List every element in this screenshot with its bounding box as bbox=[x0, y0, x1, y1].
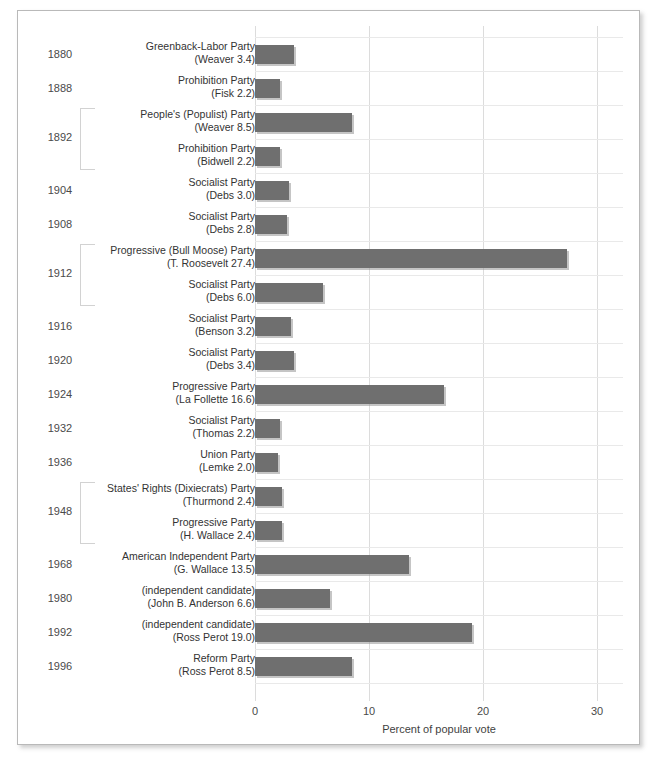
candidate-and-percent: (Weaver 3.4) bbox=[23, 53, 255, 66]
candidate-and-percent: (Debs 2.8) bbox=[23, 223, 255, 236]
x-axis-tick-label: 0 bbox=[235, 705, 275, 717]
bar-row: Progressive (Bull Moose) Party(T. Roosev… bbox=[18, 241, 641, 275]
row-party-label: Socialist Party(Debs 6.0) bbox=[23, 278, 255, 304]
row-party-label: Socialist Party(Debs 3.0) bbox=[23, 176, 255, 202]
party-name: Union Party bbox=[200, 448, 255, 460]
candidate-and-percent: (John B. Anderson 6.6) bbox=[23, 597, 255, 610]
candidate-and-percent: (H. Wallace 2.4) bbox=[23, 529, 255, 542]
party-name: Prohibition Party bbox=[178, 142, 255, 154]
bar-row: Progressive Party(H. Wallace 2.4) bbox=[18, 513, 641, 547]
candidate-and-percent: (Ross Perot 8.5) bbox=[23, 665, 255, 678]
row-party-label: Socialist Party(Thomas 2.2) bbox=[23, 414, 255, 440]
party-name: Socialist Party bbox=[188, 346, 255, 358]
row-party-label: Union Party(Lemke 2.0) bbox=[23, 448, 255, 474]
bar-row: 1880Greenback-Labor Party(Weaver 3.4) bbox=[18, 37, 641, 71]
candidate-and-percent: (Lemke 2.0) bbox=[23, 461, 255, 474]
row-party-label: Socialist Party(Debs 3.4) bbox=[23, 346, 255, 372]
bar bbox=[255, 555, 409, 574]
row-party-label: (independent candidate)(Ross Perot 19.0) bbox=[23, 618, 255, 644]
row-party-label: Greenback-Labor Party(Weaver 3.4) bbox=[23, 40, 255, 66]
bar bbox=[255, 589, 330, 608]
bar bbox=[255, 351, 294, 370]
bar-row: 1924Progressive Party(La Follette 16.6) bbox=[18, 377, 641, 411]
bar bbox=[255, 623, 472, 642]
candidate-and-percent: (Fisk 2.2) bbox=[23, 87, 255, 100]
bar-row: 1996Reform Party(Ross Perot 8.5) bbox=[18, 649, 641, 683]
bar bbox=[255, 147, 280, 166]
x-axis-title: Percent of popular vote bbox=[255, 723, 623, 735]
candidate-and-percent: (G. Wallace 13.5) bbox=[23, 563, 255, 576]
bar bbox=[255, 45, 294, 64]
party-name: (independent candidate) bbox=[142, 584, 255, 596]
bar bbox=[255, 419, 280, 438]
row-party-label: Socialist Party(Debs 2.8) bbox=[23, 210, 255, 236]
bar bbox=[255, 79, 280, 98]
party-name: Socialist Party bbox=[188, 312, 255, 324]
bar bbox=[255, 249, 567, 268]
bar-row: 1932Socialist Party(Thomas 2.2) bbox=[18, 411, 641, 445]
candidate-and-percent: (Thomas 2.2) bbox=[23, 427, 255, 440]
row-party-label: Progressive Party(La Follette 16.6) bbox=[23, 380, 255, 406]
candidate-and-percent: (Benson 3.2) bbox=[23, 325, 255, 338]
chart-frame: 1880Greenback-Labor Party(Weaver 3.4)188… bbox=[17, 10, 640, 745]
row-party-label: Reform Party(Ross Perot 8.5) bbox=[23, 652, 255, 678]
horizontal-gridline bbox=[255, 683, 623, 684]
bar bbox=[255, 181, 289, 200]
party-name: Prohibition Party bbox=[178, 74, 255, 86]
party-name: Progressive Party bbox=[172, 380, 255, 392]
bar-row: Prohibition Party(Bidwell 2.2) bbox=[18, 139, 641, 173]
party-name: American Independent Party bbox=[122, 550, 255, 562]
bar bbox=[255, 453, 278, 472]
party-name: States' Rights (Dixiecrats) Party bbox=[107, 482, 255, 494]
party-name: Reform Party bbox=[193, 652, 255, 664]
row-year-label: 1912 bbox=[26, 267, 94, 279]
bar bbox=[255, 113, 352, 132]
party-name: (independent candidate) bbox=[142, 618, 255, 630]
x-axis-tick-label: 10 bbox=[349, 705, 389, 717]
bar-row: Socialist Party(Debs 6.0) bbox=[18, 275, 641, 309]
party-name: Socialist Party bbox=[188, 278, 255, 290]
x-axis-tick-label: 20 bbox=[463, 705, 503, 717]
row-year-label: 1892 bbox=[26, 131, 94, 143]
party-name: People's (Populist) Party bbox=[140, 108, 255, 120]
row-year-label: 1948 bbox=[26, 505, 94, 517]
candidate-and-percent: (La Follette 16.6) bbox=[23, 393, 255, 406]
bar-row: 1968American Independent Party(G. Wallac… bbox=[18, 547, 641, 581]
candidate-and-percent: (Bidwell 2.2) bbox=[23, 155, 255, 168]
candidate-and-percent: (Debs 3.0) bbox=[23, 189, 255, 202]
bar-row: 1936Union Party(Lemke 2.0) bbox=[18, 445, 641, 479]
bar-row: 1904Socialist Party(Debs 3.0) bbox=[18, 173, 641, 207]
party-name: Greenback-Labor Party bbox=[146, 40, 255, 52]
bar bbox=[255, 657, 352, 676]
party-name: Socialist Party bbox=[188, 176, 255, 188]
party-name: Socialist Party bbox=[188, 210, 255, 222]
bar-row: 1916Socialist Party(Benson 3.2) bbox=[18, 309, 641, 343]
party-name: Progressive Party bbox=[172, 516, 255, 528]
bar bbox=[255, 215, 287, 234]
bar bbox=[255, 283, 323, 302]
bar-row: 1992(independent candidate)(Ross Perot 1… bbox=[18, 615, 641, 649]
plot-area: 1880Greenback-Labor Party(Weaver 3.4)188… bbox=[18, 11, 641, 746]
party-name: Socialist Party bbox=[188, 414, 255, 426]
row-party-label: American Independent Party(G. Wallace 13… bbox=[23, 550, 255, 576]
bar bbox=[255, 521, 282, 540]
bar-row: People's (Populist) Party(Weaver 8.5) bbox=[18, 105, 641, 139]
party-name: Progressive (Bull Moose) Party bbox=[110, 244, 255, 256]
bar-row: 1980(independent candidate)(John B. Ande… bbox=[18, 581, 641, 615]
row-party-label: Socialist Party(Benson 3.2) bbox=[23, 312, 255, 338]
bar-row: 1920Socialist Party(Debs 3.4) bbox=[18, 343, 641, 377]
chart-page: 1880Greenback-Labor Party(Weaver 3.4)188… bbox=[0, 0, 656, 761]
bar bbox=[255, 317, 291, 336]
candidate-and-percent: (Ross Perot 19.0) bbox=[23, 631, 255, 644]
row-party-label: Progressive Party(H. Wallace 2.4) bbox=[23, 516, 255, 542]
candidate-and-percent: (Debs 6.0) bbox=[23, 291, 255, 304]
bar-row: States' Rights (Dixiecrats) Party(Thurmo… bbox=[18, 479, 641, 513]
row-party-label: Prohibition Party(Fisk 2.2) bbox=[23, 74, 255, 100]
row-party-label: (independent candidate)(John B. Anderson… bbox=[23, 584, 255, 610]
bar-row: 1888Prohibition Party(Fisk 2.2) bbox=[18, 71, 641, 105]
candidate-and-percent: (Debs 3.4) bbox=[23, 359, 255, 372]
bar-row: 1908Socialist Party(Debs 2.8) bbox=[18, 207, 641, 241]
x-axis-tick-label: 30 bbox=[577, 705, 617, 717]
bar bbox=[255, 385, 444, 404]
bar bbox=[255, 487, 282, 506]
